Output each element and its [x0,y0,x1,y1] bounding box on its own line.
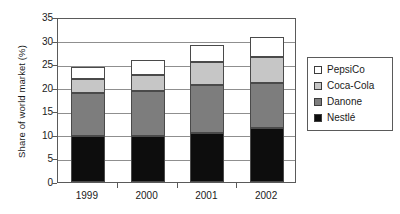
legend-label: PepsiCo [327,64,365,75]
y-axis-tick-label: 20 [13,84,53,94]
legend-label: Danone [327,96,362,107]
bar-segment-pepsico-2002[interactable] [250,37,284,57]
y-axis-tick-label: 25 [13,60,53,70]
x-axis-tick-label-1999: 1999 [57,190,117,202]
bar-segment-nestl-2001[interactable] [190,133,224,183]
bar-segment-danone-2002[interactable] [250,83,284,128]
legend-swatch-icon [314,82,322,90]
bar-segment-cocacola-2000[interactable] [131,75,165,92]
legend-swatch-icon [314,98,322,106]
x-axis-tick-label-2002: 2002 [236,190,296,202]
legend-label: Nestlé [327,112,355,123]
bar-segment-cocacola-2002[interactable] [250,57,284,83]
bar-segment-danone-1999[interactable] [71,93,105,136]
y-axis-tick-mark [52,183,57,184]
legend-item-pepsico[interactable]: PepsiCo [314,62,387,77]
x-axis-tick-mark [236,183,237,188]
bar-segment-nestl-2000[interactable] [131,136,165,182]
bar-segment-pepsico-1999[interactable] [71,67,105,80]
legend-swatch-icon [314,66,322,74]
bar-chart: Share of world market (%) 05101520253035… [0,0,400,214]
legend-item-nestl[interactable]: Nestlé [314,110,387,125]
y-axis-tick-label: 5 [13,154,53,164]
x-axis-tick-mark [177,183,178,188]
chart-legend: PepsiCoCoca-ColaDanoneNestlé [307,57,393,131]
x-axis-tick-label-2001: 2001 [176,190,236,202]
y-axis-tick-label: 30 [13,37,53,47]
legend-swatch-icon [314,114,322,122]
y-axis-tick-label: 15 [13,107,53,117]
bar-segment-pepsico-2000[interactable] [131,60,165,74]
bar-segment-nestl-1999[interactable] [71,136,105,182]
plot-area [57,18,296,183]
y-axis-tick-label: 35 [13,13,53,23]
bar-segment-danone-2000[interactable] [131,91,165,136]
x-axis-tick-mark [117,183,118,188]
y-axis-tick-label: 0 [13,178,53,188]
legend-item-danone[interactable]: Danone [314,94,387,109]
bar-segment-nestl-2002[interactable] [250,128,284,182]
legend-label: Coca-Cola [327,80,374,91]
legend-item-cocacola[interactable]: Coca-Cola [314,78,387,93]
bar-segment-cocacola-2001[interactable] [190,62,224,86]
bar-segment-pepsico-2001[interactable] [190,45,224,62]
x-axis-tick-label-2000: 2000 [117,190,177,202]
y-axis-tick-label: 10 [13,131,53,141]
bar-segment-cocacola-1999[interactable] [71,79,105,93]
bar-segment-danone-2001[interactable] [190,85,224,132]
